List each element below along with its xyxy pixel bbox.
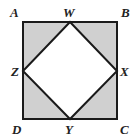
label-a: A bbox=[9, 5, 19, 20]
label-y: Y bbox=[65, 122, 74, 137]
label-w: W bbox=[63, 5, 76, 20]
label-b: B bbox=[120, 5, 130, 20]
label-c: C bbox=[120, 122, 129, 137]
label-x: X bbox=[119, 64, 129, 79]
square-diagram: A W B Z X D Y C bbox=[0, 0, 134, 140]
label-d: D bbox=[11, 122, 22, 137]
label-z: Z bbox=[10, 64, 19, 79]
